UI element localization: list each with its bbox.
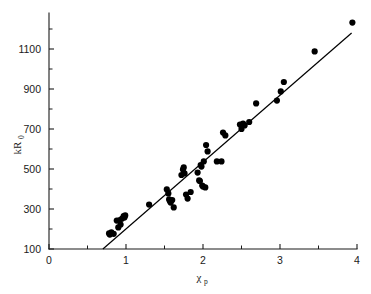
data-point: [349, 20, 355, 26]
data-points-group: [106, 20, 356, 238]
scatter-plot-figure: 100300500700900110001234 kR 0 χ p: [0, 0, 371, 294]
y-tick-label: 300: [23, 203, 41, 215]
data-point: [181, 164, 187, 170]
y-tick-label: 700: [23, 123, 41, 135]
data-point: [122, 212, 128, 218]
data-point: [146, 202, 152, 208]
y-tick-label: 100: [23, 243, 41, 255]
y-axis-title-subscript: 0: [17, 135, 26, 139]
data-point: [118, 222, 124, 228]
x-tick-label: 2: [200, 254, 206, 266]
axes-group: [49, 13, 357, 249]
data-point: [205, 148, 211, 154]
fit-line: [103, 33, 352, 249]
data-point: [203, 142, 209, 148]
x-tick-label: 3: [277, 254, 283, 266]
data-point: [169, 197, 175, 203]
data-point: [201, 158, 207, 164]
x-axis-title-subscript: p: [204, 277, 208, 286]
data-point: [222, 132, 228, 138]
data-point: [281, 79, 287, 85]
data-point: [246, 119, 252, 125]
y-tick-label: 1100: [18, 43, 41, 55]
data-point: [165, 190, 171, 196]
plot-canvas: 100300500700900110001234 kR 0 χ p: [0, 0, 371, 294]
x-axis-title-text: χ: [196, 271, 202, 283]
y-axis-title-text: kR: [11, 141, 23, 155]
x-tick-label: 0: [46, 254, 52, 266]
y-tick-label: 500: [23, 163, 41, 175]
data-point: [218, 158, 224, 164]
data-point: [185, 196, 191, 202]
ticks-group: [49, 29, 357, 249]
data-point: [171, 204, 177, 210]
data-point: [274, 98, 280, 104]
data-point: [202, 184, 208, 190]
data-point: [278, 88, 284, 94]
y-tick-label: 900: [23, 83, 41, 95]
x-tick-label: 4: [354, 254, 360, 266]
tick-labels-group: 100300500700900110001234: [18, 43, 360, 266]
data-point: [253, 100, 259, 106]
data-point: [312, 48, 318, 54]
x-tick-label: 1: [123, 254, 129, 266]
y-axis-title: kR 0: [11, 135, 26, 154]
x-axis-title: χ p: [196, 271, 208, 286]
data-point: [188, 189, 194, 195]
data-point: [111, 231, 117, 237]
data-point: [195, 170, 201, 176]
regression-line: [103, 33, 352, 249]
data-point: [181, 170, 187, 176]
